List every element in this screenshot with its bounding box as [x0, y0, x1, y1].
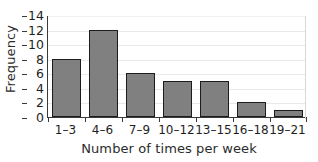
bar: [163, 81, 191, 117]
x-tick-mark: [306, 117, 307, 122]
y-tick-mark: [22, 74, 27, 75]
bar: [200, 81, 228, 117]
plot-area: [47, 16, 306, 118]
y-axis-title: Frequency: [0, 0, 22, 118]
y-tick-mark: [22, 60, 27, 61]
x-axis-title: Number of times per week: [30, 139, 308, 159]
plot-right-edge: [305, 16, 306, 119]
x-tick-label: 19–21: [269, 122, 306, 138]
x-tick-label: 7–9: [121, 122, 158, 138]
bar: [52, 59, 80, 117]
x-tick-label: 1–3: [47, 122, 84, 138]
y-tick-mark: [22, 118, 27, 119]
x-tick-label: 16–18: [232, 122, 269, 138]
bar: [89, 30, 117, 117]
y-tick-mark: [22, 16, 27, 17]
y-axis-tick-labels: 02468101214: [22, 0, 44, 162]
bar-series: [48, 16, 306, 117]
bar: [126, 73, 154, 117]
y-tick-mark: [22, 103, 27, 104]
bar: [237, 102, 265, 117]
y-tick-mark: [22, 89, 27, 90]
x-tick-label: 4–6: [84, 122, 121, 138]
x-tick-label: 10–12: [158, 122, 195, 138]
histogram-figure: Frequency 02468101214 1–34–67–910–1213–1…: [0, 0, 318, 162]
bar: [274, 110, 302, 117]
x-tick-label: 13–15: [195, 122, 232, 138]
x-axis-tick-labels: 1–34–67–910–1213–1516–1819–21: [47, 122, 306, 138]
y-tick-mark: [22, 31, 27, 32]
y-tick-mark: [22, 45, 27, 46]
